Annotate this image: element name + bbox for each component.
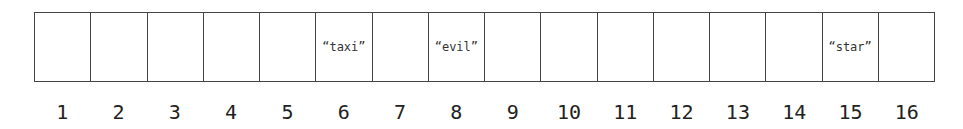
- index-label: 4: [203, 100, 259, 124]
- array-cell: [260, 13, 316, 81]
- index-label: 14: [766, 100, 822, 124]
- array-cell: [654, 13, 710, 81]
- array-cell: “star”: [823, 13, 879, 81]
- index-label: 9: [485, 100, 541, 124]
- index-label: 1: [34, 100, 90, 124]
- index-label: 8: [428, 100, 484, 124]
- array-cell: [879, 13, 934, 81]
- array-cell: [373, 13, 429, 81]
- array-cell: “evil”: [429, 13, 485, 81]
- array-cell: [710, 13, 766, 81]
- index-label: 11: [597, 100, 653, 124]
- array-cell: [541, 13, 597, 81]
- index-label: 12: [653, 100, 709, 124]
- index-labels: 12345678910111213141516: [34, 100, 935, 124]
- index-label: 3: [147, 100, 203, 124]
- index-label: 5: [259, 100, 315, 124]
- index-label: 7: [372, 100, 428, 124]
- index-label: 10: [541, 100, 597, 124]
- index-label: 15: [822, 100, 878, 124]
- array-cell: [204, 13, 260, 81]
- array-cell: [766, 13, 822, 81]
- index-label: 13: [710, 100, 766, 124]
- hash-table-array: “taxi”“evil”“star”: [34, 12, 935, 82]
- index-label: 16: [879, 100, 935, 124]
- index-label: 6: [316, 100, 372, 124]
- array-cell: [91, 13, 147, 81]
- index-label: 2: [90, 100, 146, 124]
- array-cell: [598, 13, 654, 81]
- array-cell: “taxi”: [316, 13, 372, 81]
- array-cell: [485, 13, 541, 81]
- array-cell: [35, 13, 91, 81]
- array-cell: [148, 13, 204, 81]
